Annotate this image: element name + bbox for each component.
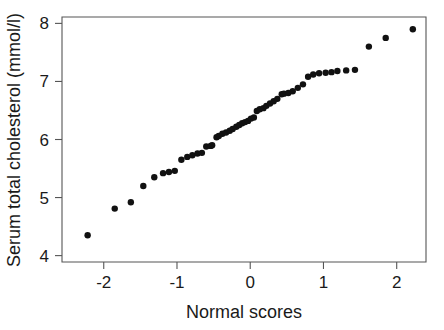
x-tick-label: -2 bbox=[96, 273, 111, 292]
x-axis-title: Normal scores bbox=[186, 302, 302, 322]
data-point bbox=[300, 81, 306, 87]
data-point bbox=[199, 150, 205, 156]
data-point bbox=[310, 71, 316, 77]
data-point bbox=[140, 183, 146, 189]
qq-plot-svg: -2-1012 45678 Normal scores Serum total … bbox=[0, 0, 444, 330]
data-point bbox=[334, 68, 340, 74]
data-point bbox=[322, 70, 328, 76]
data-point bbox=[366, 43, 372, 49]
x-tick-label: 0 bbox=[245, 273, 254, 292]
x-tick-label: -1 bbox=[169, 273, 184, 292]
data-point bbox=[151, 174, 157, 180]
data-point bbox=[352, 67, 358, 73]
data-point bbox=[274, 96, 280, 102]
data-point bbox=[178, 157, 184, 163]
x-tick-label: 2 bbox=[392, 273, 401, 292]
data-point bbox=[166, 169, 172, 175]
data-point bbox=[343, 67, 349, 73]
y-tick-label: 8 bbox=[40, 14, 49, 33]
y-tick-label: 4 bbox=[40, 247, 49, 266]
data-point bbox=[112, 205, 118, 211]
x-tick-label: 1 bbox=[319, 273, 328, 292]
y-tick-label: 6 bbox=[40, 131, 49, 150]
y-axis-title: Serum total cholesterol (mmol/l) bbox=[4, 13, 24, 267]
data-point bbox=[209, 142, 215, 148]
data-point bbox=[316, 70, 322, 76]
data-point bbox=[160, 170, 166, 176]
data-point bbox=[410, 26, 416, 32]
data-point bbox=[84, 232, 90, 238]
data-point bbox=[383, 35, 389, 41]
data-point bbox=[251, 114, 257, 120]
chart-figure: -2-1012 45678 Normal scores Serum total … bbox=[0, 0, 444, 330]
y-tick-label: 7 bbox=[40, 72, 49, 91]
y-tick-label: 5 bbox=[40, 189, 49, 208]
data-point bbox=[172, 168, 178, 174]
data-point bbox=[328, 69, 334, 75]
data-point bbox=[128, 199, 134, 205]
figure-background bbox=[0, 0, 444, 330]
